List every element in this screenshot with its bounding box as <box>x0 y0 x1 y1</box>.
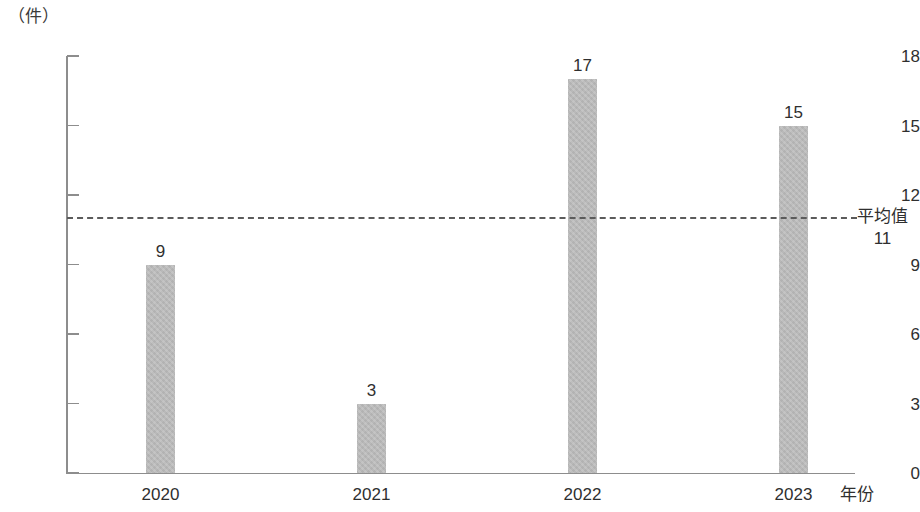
x-axis-tick-label: 2021 <box>332 486 412 503</box>
bar-value-label: 15 <box>764 104 824 121</box>
y-axis-tick-label: 18 <box>878 48 920 65</box>
plot-area: 931715 <box>67 56 855 473</box>
bar <box>357 404 386 474</box>
y-axis-unit-label: （件） <box>8 8 59 25</box>
x-axis-title: 年份 <box>840 486 874 503</box>
average-line-value: 11 <box>857 227 908 249</box>
y-axis-tick-label: 3 <box>878 395 920 412</box>
x-axis-tick-label: 2022 <box>543 486 623 503</box>
bar <box>146 265 175 474</box>
y-axis-tick-label: 12 <box>878 187 920 204</box>
bar <box>779 126 808 474</box>
x-axis-tick-label: 2023 <box>754 486 834 503</box>
average-line-label: 平均值 11 <box>857 207 908 248</box>
bar-value-label: 9 <box>131 243 191 260</box>
bar <box>568 79 597 473</box>
y-axis-tick-label: 9 <box>878 256 920 273</box>
y-axis-tick-label: 0 <box>878 465 920 482</box>
bar-chart: （件） 0369121518 931715 平均值 11 20202021202… <box>0 0 920 512</box>
bar-value-label: 3 <box>342 382 402 399</box>
average-line <box>67 217 857 219</box>
average-line-name: 平均值 <box>857 207 908 227</box>
y-axis-tick-label: 15 <box>878 117 920 134</box>
x-axis-tick-label: 2020 <box>121 486 201 503</box>
y-axis-tick-label: 6 <box>878 326 920 343</box>
bar-value-label: 17 <box>553 57 613 74</box>
